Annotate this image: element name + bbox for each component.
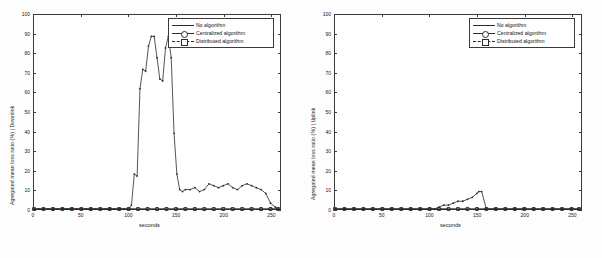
y-tick-mark bbox=[334, 132, 337, 133]
y-tick-mark bbox=[579, 14, 582, 15]
series-point bbox=[260, 189, 262, 191]
series-point bbox=[182, 191, 184, 193]
y-tick-label: 80 bbox=[315, 50, 331, 56]
y-tick-mark bbox=[33, 190, 36, 191]
y-tick-label: 30 bbox=[315, 148, 331, 154]
y-tick-label: 90 bbox=[315, 31, 331, 37]
y-tick-mark bbox=[278, 151, 281, 152]
x-axis-label-uplink: seconds bbox=[440, 222, 461, 228]
legend-item: No algorithm bbox=[473, 21, 571, 29]
x-tick-label: 100 bbox=[120, 212, 136, 218]
series-point bbox=[265, 193, 267, 195]
x-tick-mark bbox=[334, 14, 335, 17]
series-point bbox=[478, 191, 480, 193]
y-tick-mark bbox=[33, 92, 36, 93]
series-point bbox=[476, 193, 478, 195]
series-point bbox=[194, 187, 196, 189]
series-point bbox=[173, 132, 175, 134]
y-tick-mark bbox=[33, 53, 36, 54]
y-tick-mark bbox=[334, 151, 337, 152]
x-tick-mark bbox=[477, 14, 478, 17]
series-line bbox=[335, 192, 579, 209]
series-point bbox=[471, 196, 473, 198]
y-tick-mark bbox=[33, 171, 36, 172]
y-tick-label: 50 bbox=[14, 109, 30, 115]
series-point bbox=[274, 206, 276, 208]
y-tick-label: 50 bbox=[315, 109, 331, 115]
y-tick-mark bbox=[278, 210, 281, 211]
x-tick-mark bbox=[572, 207, 573, 210]
y-tick-mark bbox=[33, 132, 36, 133]
series-point bbox=[481, 191, 483, 193]
x-tick-label: 250 bbox=[564, 212, 580, 218]
chart-panel-downlink: Agregated mean loss ratio (%) | Downlink… bbox=[0, 0, 301, 258]
x-tick-label: 200 bbox=[216, 212, 232, 218]
series-point bbox=[179, 189, 181, 191]
y-tick-label: 10 bbox=[315, 187, 331, 193]
x-tick-mark bbox=[128, 207, 129, 210]
series-point bbox=[162, 80, 164, 82]
series-point bbox=[184, 189, 186, 191]
y-tick-mark bbox=[579, 73, 582, 74]
series-point bbox=[227, 183, 229, 185]
x-tick-mark bbox=[429, 14, 430, 17]
legend-downlink: No algorithmCentralized algorithmDistrib… bbox=[168, 18, 274, 48]
y-tick-mark bbox=[579, 190, 582, 191]
y-tick-label: 20 bbox=[14, 168, 30, 174]
series-point bbox=[218, 187, 220, 189]
legend-uplink: No algorithmCentralized algorithmDistrib… bbox=[469, 18, 575, 48]
series-point bbox=[246, 183, 248, 185]
chart-panel-uplink: Agregated mean loss ratio (%) | Uplink s… bbox=[301, 0, 602, 258]
y-tick-mark bbox=[33, 112, 36, 113]
series-point bbox=[467, 198, 469, 200]
series-point bbox=[199, 191, 201, 193]
x-tick-mark bbox=[334, 207, 335, 210]
x-tick-mark bbox=[33, 207, 34, 210]
y-tick-mark bbox=[334, 92, 337, 93]
series-point bbox=[165, 47, 167, 49]
y-tick-mark bbox=[278, 53, 281, 54]
series-point bbox=[150, 35, 152, 37]
x-tick-label: 250 bbox=[263, 212, 279, 218]
y-tick-mark bbox=[278, 73, 281, 74]
y-tick-label: 40 bbox=[14, 129, 30, 135]
legend-label: Centralized algorithm bbox=[497, 30, 546, 36]
y-tick-mark bbox=[278, 171, 281, 172]
x-tick-mark bbox=[382, 14, 383, 17]
series-point bbox=[131, 204, 133, 206]
y-tick-mark bbox=[33, 151, 36, 152]
x-tick-label: 150 bbox=[469, 212, 485, 218]
legend-symbol-icon bbox=[473, 29, 495, 37]
x-tick-label: 100 bbox=[421, 212, 437, 218]
figure-container: Agregated mean loss ratio (%) | Downlink… bbox=[0, 0, 602, 258]
x-tick-label: 50 bbox=[73, 212, 89, 218]
y-tick-mark bbox=[334, 171, 337, 172]
y-tick-mark bbox=[334, 53, 337, 54]
x-tick-label: 0 bbox=[326, 212, 342, 218]
legend-item: Centralized algorithm bbox=[473, 29, 571, 37]
y-tick-mark bbox=[579, 132, 582, 133]
y-tick-mark bbox=[579, 53, 582, 54]
x-tick-mark bbox=[572, 14, 573, 17]
legend-symbol-icon bbox=[172, 29, 194, 37]
x-tick-mark bbox=[429, 207, 430, 210]
y-tick-label: 30 bbox=[14, 148, 30, 154]
series-point bbox=[255, 187, 257, 189]
y-tick-mark bbox=[579, 210, 582, 211]
series-point bbox=[189, 189, 191, 191]
y-tick-mark bbox=[33, 210, 36, 211]
x-tick-mark bbox=[525, 207, 526, 210]
x-tick-mark bbox=[477, 207, 478, 210]
x-tick-label: 50 bbox=[374, 212, 390, 218]
series-point bbox=[176, 173, 178, 175]
y-tick-mark bbox=[278, 14, 281, 15]
x-tick-mark bbox=[81, 14, 82, 17]
y-tick-label: 100 bbox=[315, 11, 331, 17]
y-tick-mark bbox=[334, 34, 337, 35]
y-tick-label: 70 bbox=[315, 70, 331, 76]
series-point bbox=[159, 78, 161, 80]
x-tick-mark bbox=[224, 14, 225, 17]
y-tick-label: 40 bbox=[315, 129, 331, 135]
legend-item: Distributed algorithm bbox=[473, 37, 571, 45]
series-point bbox=[448, 204, 450, 206]
